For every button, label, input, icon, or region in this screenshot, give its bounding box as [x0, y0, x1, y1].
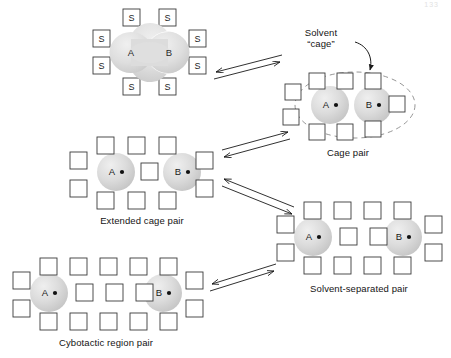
sphere-b-cage — [354, 86, 392, 124]
species-label-a: A — [323, 99, 330, 110]
structure-extended-cage-pair: A B — [70, 137, 213, 209]
radical-dot-a — [334, 103, 338, 107]
sphere-b-extended — [163, 153, 201, 191]
species-label-a: A — [128, 47, 135, 58]
radical-dot-a — [317, 235, 321, 239]
solvent-separated-pair-label: Solvent-separated pair — [310, 283, 408, 294]
svg-text:S: S — [194, 34, 200, 44]
sphere-a-extended — [97, 153, 135, 191]
species-label-a: A — [42, 287, 49, 298]
species-label-b: B — [175, 166, 181, 177]
structure-solvent-separated-pair: A B — [277, 202, 442, 274]
cage-pair-label: Cage pair — [327, 147, 369, 158]
svg-text:S: S — [98, 61, 104, 71]
radical-dot-b — [186, 170, 190, 174]
sphere-a-cybotactic — [30, 274, 68, 312]
svg-text:S: S — [128, 82, 134, 92]
sphere-a-cage — [311, 86, 349, 124]
radical-dot-a — [53, 291, 57, 295]
radical-dot-a — [120, 170, 124, 174]
equilibrium-arrow-3 — [222, 179, 294, 214]
equilibrium-arrow-4 — [210, 264, 276, 291]
equilibrium-arrow-1 — [214, 55, 282, 79]
species-label-b: B — [396, 231, 402, 242]
species-label-a: A — [109, 166, 116, 177]
sphere-b-separated — [384, 218, 422, 256]
svg-text:S: S — [194, 61, 200, 71]
radical-dot-b — [377, 103, 381, 107]
species-label-b: B — [366, 99, 372, 110]
radical-dot-b — [407, 235, 411, 239]
sphere-a-separated — [294, 218, 332, 256]
species-label-a: A — [306, 231, 313, 242]
solvent-cage-diagram: S S S S S S S S A B — [0, 0, 451, 358]
species-label-b: B — [166, 47, 172, 58]
solvent-cage-label-line1: Solvent — [305, 27, 337, 38]
radical-dot-b — [167, 291, 171, 295]
solvent-cage-pointer-arrow — [355, 42, 371, 70]
svg-text:S: S — [164, 82, 170, 92]
svg-text:S: S — [128, 13, 134, 23]
species-label-b: B — [156, 287, 162, 298]
structure-cybotactic-region-pair: A B — [13, 258, 203, 330]
svg-text:S: S — [164, 13, 170, 23]
ab-contact-peanut — [110, 23, 190, 82]
svg-text:S: S — [98, 34, 104, 44]
solvent-cage-label-line2: “cage” — [307, 38, 335, 49]
equilibrium-arrow-2 — [222, 132, 290, 157]
structure-cage-pair: A B — [283, 72, 415, 140]
extended-cage-pair-label: Extended cage pair — [100, 215, 184, 226]
cybotactic-region-pair-label: Cybotactic region pair — [59, 337, 153, 348]
structure-contact-pair: S S S S S S S S A B — [93, 9, 206, 95]
